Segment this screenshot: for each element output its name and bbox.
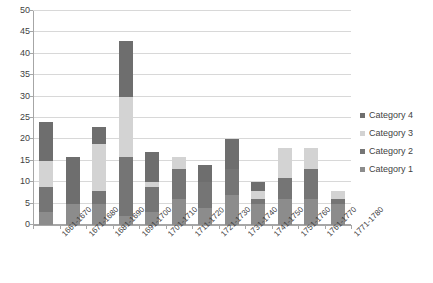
legend-swatch-icon xyxy=(360,113,365,118)
bar-segment[interactable] xyxy=(278,148,292,178)
chart-legend: Category 4Category 3Category 2Category 1 xyxy=(360,106,432,178)
plot-area xyxy=(33,11,351,225)
legend-item[interactable]: Category 1 xyxy=(360,160,432,178)
x-tick-mark xyxy=(298,226,299,229)
bar-column[interactable] xyxy=(92,127,106,225)
bar-segment[interactable] xyxy=(92,144,106,191)
bar-segment[interactable] xyxy=(198,182,212,208)
y-tick-label: 50 xyxy=(4,6,30,15)
x-tick-label: 1731-1740 xyxy=(246,232,252,238)
legend-swatch-icon xyxy=(360,167,365,172)
x-axis-labels: 1661-16701671-16801681-16901691-17001701… xyxy=(33,226,352,283)
bar-segment[interactable] xyxy=(304,148,318,169)
legend-item[interactable]: Category 4 xyxy=(360,106,432,124)
y-tick-label: 10 xyxy=(4,177,30,186)
x-tick-mark xyxy=(219,226,220,229)
y-tick-label: 25 xyxy=(4,113,30,122)
stacked-column-chart: 05101520253035404550 1661-16701671-16801… xyxy=(0,0,433,283)
y-tick-label: 0 xyxy=(4,220,30,229)
x-tick-label: 1721-1730 xyxy=(219,232,225,238)
y-tick-label: 40 xyxy=(4,49,30,58)
bar-column[interactable] xyxy=(119,41,133,225)
x-tick-mark xyxy=(166,226,167,229)
bar-segment[interactable] xyxy=(39,187,53,213)
legend-label: Category 1 xyxy=(369,165,413,174)
bars-layer xyxy=(33,11,351,225)
legend-label: Category 3 xyxy=(369,129,413,138)
bar-segment[interactable] xyxy=(172,169,186,199)
x-tick-label: 1761-1770 xyxy=(325,232,331,238)
x-tick-mark xyxy=(192,226,193,229)
legend-swatch-icon xyxy=(360,149,365,154)
bar-segment[interactable] xyxy=(172,157,186,170)
bar-segment[interactable] xyxy=(119,41,133,97)
x-tick-label: 1671-1680 xyxy=(87,232,93,238)
bar-segment[interactable] xyxy=(198,165,212,182)
y-tick-label: 15 xyxy=(4,156,30,165)
bar-segment[interactable] xyxy=(331,191,345,200)
y-axis: 05101520253035404550 xyxy=(0,11,30,225)
x-tick-label: 1701-1710 xyxy=(166,232,172,238)
x-tick-mark xyxy=(351,226,352,229)
x-tick-label: 1691-1700 xyxy=(140,232,146,238)
bar-segment[interactable] xyxy=(92,191,106,204)
x-tick-mark xyxy=(325,226,326,229)
x-tick-label: 1751-1760 xyxy=(299,232,305,238)
x-tick-label: 1711-1720 xyxy=(193,232,199,238)
bar-segment[interactable] xyxy=(39,212,53,225)
bar-segment[interactable] xyxy=(119,157,133,217)
bar-segment[interactable] xyxy=(251,182,265,191)
y-tick-label: 5 xyxy=(4,199,30,208)
bar-segment[interactable] xyxy=(66,157,80,204)
bar-column[interactable] xyxy=(39,122,53,225)
x-tick-mark xyxy=(139,226,140,229)
legend-item[interactable]: Category 3 xyxy=(360,124,432,142)
x-tick-mark xyxy=(245,226,246,229)
x-tick-mark xyxy=(60,226,61,229)
bar-segment[interactable] xyxy=(119,97,133,157)
x-tick-label: 1771-1780 xyxy=(352,232,358,238)
legend-label: Category 2 xyxy=(369,147,413,156)
bar-segment[interactable] xyxy=(145,152,159,182)
x-tick-mark xyxy=(272,226,273,229)
legend-swatch-icon xyxy=(360,131,365,136)
bar-segment[interactable] xyxy=(92,127,106,144)
bar-segment[interactable] xyxy=(39,161,53,187)
y-tick-label: 45 xyxy=(4,27,30,36)
x-tick-label: 1741-1750 xyxy=(272,232,278,238)
bar-segment[interactable] xyxy=(278,178,292,199)
legend-label: Category 4 xyxy=(369,111,413,120)
x-tick-label: 1681-1690 xyxy=(113,232,119,238)
y-axis-line xyxy=(33,11,34,226)
x-tick-mark xyxy=(33,226,34,229)
x-tick-mark xyxy=(86,226,87,229)
bar-segment[interactable] xyxy=(304,169,318,199)
y-tick-label: 30 xyxy=(4,92,30,101)
y-tick-label: 35 xyxy=(4,70,30,79)
bar-segment[interactable] xyxy=(225,169,239,195)
x-tick-mark xyxy=(113,226,114,229)
bar-segment[interactable] xyxy=(39,122,53,161)
bar-column[interactable] xyxy=(225,139,239,225)
x-tick-label: 1661-1670 xyxy=(60,232,66,238)
legend-item[interactable]: Category 2 xyxy=(360,142,432,160)
y-tick-label: 20 xyxy=(4,134,30,143)
bar-segment[interactable] xyxy=(225,139,239,169)
bar-segment[interactable] xyxy=(251,191,265,200)
bar-segment[interactable] xyxy=(145,187,159,213)
